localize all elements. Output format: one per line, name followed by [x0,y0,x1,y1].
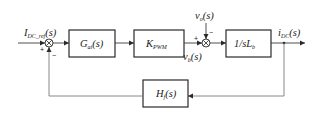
output-label: iDC(s) [278,27,301,39]
controller-label: Gai(s) [80,38,104,50]
block-diagram: + − IDC_ref(s) Gai(s) KPWM + vb(s) vo(s)… [0,0,318,117]
input-label: IDC_ref(s) [23,27,57,39]
arrow-to-feedback [188,94,193,99]
intermediate-voltage-label: vb(s) [183,51,202,63]
sj1-minus-sign: − [52,52,56,59]
feedback-arrow-to-sj1 [47,47,52,52]
arrow-to-plant [221,41,226,46]
summing-junction-1 [45,39,53,47]
input-arrow [40,41,45,46]
arrow-to-pwm [129,41,134,46]
summing-junction-2 [202,39,210,47]
disturbance-arrow [204,34,209,39]
plant-label: 1/sLb [234,38,255,50]
feedback-label: Hf(s) [155,88,177,100]
sj2-minus-sign: − [209,29,213,36]
arrow-to-controller [64,41,69,46]
disturbance-label: vo(s) [195,10,214,22]
sj1-plus-sign: + [40,46,44,53]
sj2-plus-sign: + [194,35,198,42]
output-arrow [300,41,305,46]
